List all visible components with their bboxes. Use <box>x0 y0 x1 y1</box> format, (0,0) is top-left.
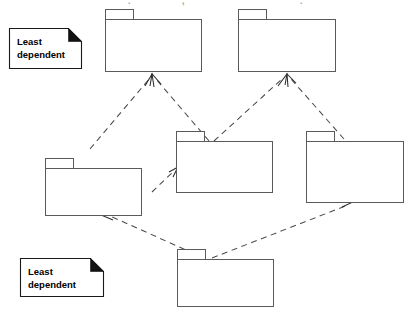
package-body <box>178 260 274 307</box>
dependency-mid-left-to-mid-center <box>152 167 178 192</box>
dependency-line <box>90 78 150 149</box>
package-tab <box>307 132 335 142</box>
package-body <box>177 142 273 193</box>
dependency-line <box>152 170 175 192</box>
package-body <box>307 142 404 203</box>
package-tab <box>46 159 74 169</box>
pkg-top-left[interactable] <box>106 10 202 72</box>
clipped-title-glyph-mid: , <box>182 0 185 6</box>
package-tab <box>239 10 267 20</box>
dependency-line <box>212 205 348 258</box>
package-dependency-diagram: . , . <box>0 0 409 314</box>
package-tab <box>106 10 134 20</box>
note-folded-corner-icon <box>91 259 104 272</box>
pkg-mid-center[interactable] <box>177 132 273 193</box>
package-tab <box>178 250 206 260</box>
note-most-dependent[interactable]: Least dependent <box>21 259 104 297</box>
dependency-line <box>214 79 282 141</box>
dependency-mid-center-to-top-right <box>214 74 288 141</box>
note-least-dependent[interactable]: Least dependent <box>10 29 82 69</box>
note-least-dependent-line2: dependent <box>17 49 66 60</box>
dependency-mid-left-to-top-left <box>90 74 154 149</box>
pkg-bottom-center[interactable] <box>178 250 274 307</box>
diagram-canvas: . , . <box>0 0 409 314</box>
note-folded-corner-icon <box>69 29 82 42</box>
package-body <box>239 20 336 72</box>
dependency-mid-center-to-top-left <box>150 74 209 141</box>
clipped-title-remnant: . , . <box>128 0 303 6</box>
dependency-line <box>291 79 344 139</box>
clipped-title-glyph-left: . <box>128 0 131 6</box>
package-body <box>106 20 202 72</box>
pkg-mid-right[interactable] <box>307 132 404 203</box>
note-most-dependent-line2: dependent <box>28 279 77 290</box>
pkg-mid-left[interactable] <box>46 159 142 216</box>
dependency-mid-right-to-top-right <box>285 74 344 139</box>
dependency-bottom-to-mid-right <box>212 196 353 258</box>
arrowhead-icon <box>145 74 154 87</box>
pkg-top-right[interactable] <box>239 10 336 72</box>
note-least-dependent-line1: Least <box>17 36 43 47</box>
clipped-title-glyph-right: . <box>300 0 303 6</box>
package-tab <box>177 132 205 142</box>
package-body <box>46 169 142 216</box>
note-most-dependent-line1: Least <box>28 266 54 277</box>
arrowhead-icon <box>150 74 161 86</box>
